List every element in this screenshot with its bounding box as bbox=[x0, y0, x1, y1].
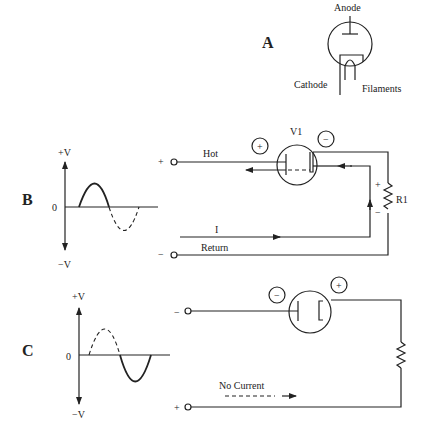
zero-label: 0 bbox=[66, 351, 71, 362]
cathode-polarity-badge: + bbox=[336, 280, 342, 291]
resistor-minus: − bbox=[375, 207, 381, 218]
resistor-plus: + bbox=[375, 179, 381, 190]
diode-tube-diagram: A Anode Cathode Filaments B +V 0 −V bbox=[0, 0, 428, 425]
current-label: I bbox=[215, 224, 218, 235]
bottom-terminal-polarity: + bbox=[174, 402, 180, 413]
cathode-label: Cathode bbox=[294, 79, 328, 90]
cathode-polarity-badge: − bbox=[323, 134, 329, 145]
bottom-terminal-polarity: − bbox=[158, 249, 164, 260]
panel-a-letter: A bbox=[262, 34, 274, 51]
neg-voltage-label: −V bbox=[72, 409, 86, 420]
anode-label: Anode bbox=[334, 2, 361, 13]
panel-b-waveform: +V 0 −V bbox=[52, 147, 158, 270]
resistor bbox=[397, 342, 405, 368]
tube-label-v1: V1 bbox=[290, 126, 302, 137]
neg-voltage-label: −V bbox=[58, 259, 72, 270]
panel-c-circuit: − + − + No Current bbox=[174, 277, 405, 413]
panel-c: C +V 0 −V − + − + No bbox=[22, 277, 405, 420]
anode-polarity-badge: − bbox=[274, 290, 280, 301]
bottom-terminal bbox=[171, 252, 177, 258]
filaments-label: Filaments bbox=[362, 83, 402, 94]
panel-c-letter: C bbox=[22, 342, 34, 359]
top-terminal bbox=[185, 308, 191, 314]
resistor-label: R1 bbox=[396, 194, 408, 205]
top-terminal bbox=[171, 159, 177, 165]
pos-voltage-label: +V bbox=[72, 291, 86, 302]
hot-label: Hot bbox=[203, 148, 218, 159]
panel-b-circuit: + − Hot V1 + − + − R1 bbox=[158, 126, 408, 260]
zero-label: 0 bbox=[52, 202, 57, 213]
bottom-terminal bbox=[185, 404, 191, 410]
top-terminal-polarity: − bbox=[174, 307, 180, 318]
no-current-label: No Current bbox=[219, 380, 264, 391]
panel-c-waveform: +V 0 −V bbox=[66, 291, 170, 420]
resistor-r1 bbox=[384, 183, 392, 209]
panel-b-letter: B bbox=[22, 191, 33, 208]
top-terminal-polarity: + bbox=[158, 156, 164, 167]
panel-b: B +V 0 −V + − Hot V1 + − bbox=[22, 126, 408, 270]
return-label: Return bbox=[201, 242, 228, 253]
pos-voltage-label: +V bbox=[58, 147, 72, 158]
anode-polarity-badge: + bbox=[257, 141, 263, 152]
panel-a: A Anode Cathode Filaments bbox=[262, 2, 402, 95]
